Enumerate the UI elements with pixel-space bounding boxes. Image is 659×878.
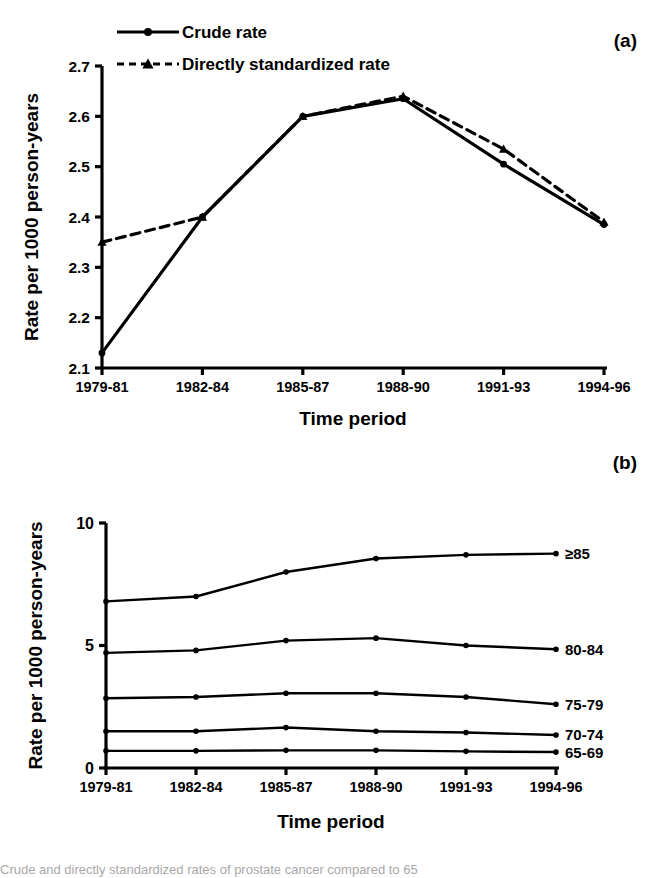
series-label-4: 65-69 xyxy=(565,744,603,761)
x-axis-title: Time period xyxy=(277,811,384,832)
data-point-marker xyxy=(553,702,559,708)
series-line xyxy=(102,96,604,242)
data-point-marker xyxy=(193,648,199,654)
y-axis-tick-label: 2.7 xyxy=(68,58,90,75)
legend-marker-0 xyxy=(144,28,152,36)
data-point-marker xyxy=(463,643,469,649)
chart-panel-b: (b) 05101979-811982-841985-871988-901991… xyxy=(0,430,659,850)
x-axis-tick-label: 1982-84 xyxy=(176,379,229,395)
x-axis-tick-label: 1988-90 xyxy=(349,779,402,795)
data-point-marker xyxy=(283,638,289,644)
x-axis-tick-label: 1985-87 xyxy=(276,379,329,395)
data-point-marker xyxy=(99,350,106,357)
data-point-marker xyxy=(463,552,469,558)
y-axis-tick-label: 5 xyxy=(85,637,94,654)
x-axis-tick-label: 1994-96 xyxy=(529,779,582,795)
series-line xyxy=(106,728,556,735)
data-point-marker xyxy=(103,650,109,656)
data-point-marker xyxy=(193,594,199,600)
data-point-marker xyxy=(283,690,289,696)
x-axis-tick-label: 1985-87 xyxy=(259,779,312,795)
data-point-marker xyxy=(103,728,109,734)
series-line xyxy=(106,750,556,752)
x-axis-tick-label: 1979-81 xyxy=(79,779,132,795)
y-axis-tick-label: 2.3 xyxy=(68,259,90,276)
data-point-marker xyxy=(193,728,199,734)
figure-caption: Crude and directly standardized rates of… xyxy=(0,862,659,877)
data-point-marker xyxy=(283,725,289,731)
y-axis-tick-label: 0 xyxy=(85,760,94,777)
data-point-marker xyxy=(373,690,379,696)
x-axis-tick-label: 1991-93 xyxy=(477,379,530,395)
x-axis-tick-label: 1988-90 xyxy=(377,379,430,395)
y-axis-tick-label: 2.1 xyxy=(68,360,90,377)
series-line xyxy=(102,99,604,353)
series-label-1: 80-84 xyxy=(565,641,604,658)
legend-label-0: Crude rate xyxy=(182,23,267,42)
figure-container: (a) 2.12.22.32.42.52.62.71979-811982-841… xyxy=(0,0,659,878)
y-axis-tick-label: 2.2 xyxy=(68,309,90,326)
x-axis-tick-label: 1979-81 xyxy=(75,379,128,395)
y-axis-tick-label: 2.4 xyxy=(68,209,90,226)
data-point-marker xyxy=(463,694,469,700)
data-point-marker xyxy=(553,732,559,738)
chart-panel-a: (a) 2.12.22.32.42.52.62.71979-811982-841… xyxy=(0,0,659,440)
y-axis-tick-label: 2.6 xyxy=(68,108,90,125)
y-axis-tick-label: 2.5 xyxy=(68,158,90,175)
series-line xyxy=(106,638,556,653)
data-point-marker xyxy=(373,635,379,641)
series-label-2: 75-79 xyxy=(565,696,603,713)
data-point-marker xyxy=(103,695,109,701)
chart-a-canvas: 2.12.22.32.42.52.62.71979-811982-841985-… xyxy=(0,0,659,440)
data-point-marker xyxy=(103,599,109,605)
data-point-marker xyxy=(500,161,507,168)
data-point-marker xyxy=(283,748,289,754)
x-axis-tick-label: 1991-93 xyxy=(439,779,492,795)
data-point-marker xyxy=(193,748,199,754)
y-axis-title: Rate per 1000 person-years xyxy=(25,521,46,769)
x-axis-title: Time period xyxy=(299,408,406,429)
chart-b-canvas: 05101979-811982-841985-871988-901991-931… xyxy=(0,430,659,850)
data-point-marker xyxy=(103,748,109,754)
data-point-marker xyxy=(283,569,289,575)
data-point-marker xyxy=(373,728,379,734)
data-point-marker xyxy=(463,749,469,755)
x-axis-tick-label: 1982-84 xyxy=(169,779,222,795)
data-point-marker xyxy=(373,556,379,562)
data-point-marker xyxy=(553,749,559,755)
data-point-marker xyxy=(373,748,379,754)
series-line xyxy=(106,693,556,704)
data-point-marker xyxy=(553,646,559,652)
x-axis-tick-label: 1994-96 xyxy=(577,379,630,395)
series-label-3: 70-74 xyxy=(565,726,604,743)
series-line xyxy=(106,554,556,602)
legend-label-1: Directly standardized rate xyxy=(182,55,390,74)
y-axis-tick-label: 10 xyxy=(76,515,94,532)
data-point-marker xyxy=(463,730,469,736)
series-label-0: ≥85 xyxy=(565,545,590,562)
data-point-marker xyxy=(193,694,199,700)
data-point-marker xyxy=(553,551,559,557)
y-axis-title: Rate per 1000 person-years xyxy=(21,93,42,341)
